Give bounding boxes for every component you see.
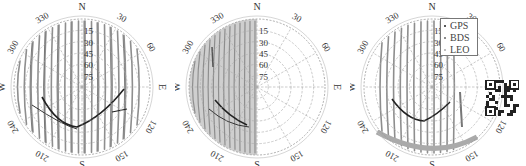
elevation-label: 75 [84,72,94,82]
legend-item-leo: LEO [444,44,474,56]
skyplot-middle: N3060E120150S210240W3003301530456075 [175,0,350,166]
azimuth-label: S [254,159,260,166]
azimuth-label: 150 [463,149,480,165]
elevation-label: 60 [259,60,269,70]
azimuth-label: N [78,1,85,12]
azimuth-label: 120 [318,119,334,136]
qr-code-icon [485,80,519,116]
azimuth-label: 300 [180,38,196,55]
legend-label-leo: LEO [450,44,469,56]
azimuth-label: S [429,159,435,166]
legend-label-bds: BDS [450,32,469,44]
elevation-label: 75 [259,72,269,82]
azimuth-label: 210 [383,148,400,164]
elevation-label: 15 [259,26,269,36]
azimuth-label: E [332,84,343,90]
azimuth-label: 210 [208,148,225,164]
azimuth-label: 240 [355,118,371,135]
azimuth-label: 60 [145,41,158,54]
elevation-label: 45 [259,49,269,59]
azimuth-label: 330 [384,10,401,26]
azimuth-label: S [79,159,85,166]
elevation-label: 30 [259,38,269,48]
azimuth-label: 60 [320,41,333,54]
skyplot-middle-svg: N3060E120150S210240W3003301530456075 [175,0,350,166]
azimuth-label: W [0,82,7,92]
azimuth-label: 60 [495,41,508,54]
azimuth-label: 150 [113,149,130,165]
elevation-label: 45 [84,49,94,59]
azimuth-label: 300 [5,38,21,55]
elevation-label: 60 [434,60,444,70]
azimuth-label: 120 [143,119,159,136]
gps-marker-icon [444,25,446,27]
elevation-label: 30 [84,38,94,48]
azimuth-label: 330 [34,10,51,26]
azimuth-label: N [253,1,260,12]
azimuth-label: 240 [5,118,21,135]
legend-label-gps: GPS [450,20,468,32]
azimuth-label: N [428,1,435,12]
azimuth-label: E [157,84,168,90]
legend-item-bds: BDS [444,32,474,44]
azimuth-label: W [175,82,182,92]
azimuth-label: 300 [355,38,371,55]
elevation-label: 60 [84,60,94,70]
skyplot-left-svg: N3060E120150S210240W3003301530456075 [0,0,175,166]
azimuth-label: W [350,82,357,92]
azimuth-label: 240 [180,118,196,135]
elevation-label: 75 [434,72,444,82]
legend-item-gps: GPS [444,20,474,32]
bds-marker-icon [444,37,446,39]
azimuth-label: 150 [288,149,305,165]
azimuth-label: 330 [209,10,226,26]
azimuth-label: 30 [116,11,129,24]
legend: GPS BDS LEO [440,18,478,56]
leo-marker-icon [444,49,446,51]
skyplot-left: N3060E120150S210240W3003301530456075 [0,0,175,166]
azimuth-label: 210 [33,148,50,164]
azimuth-label: 120 [493,119,509,136]
elevation-label: 15 [84,26,94,36]
azimuth-label: 30 [291,11,304,24]
